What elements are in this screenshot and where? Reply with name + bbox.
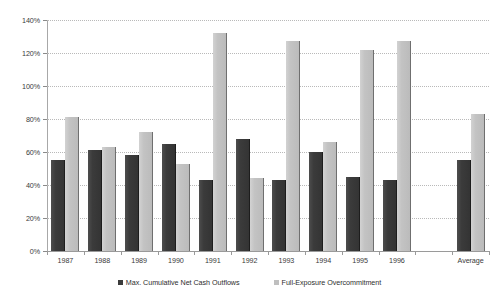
y-axis-tick-label: 80%	[0, 115, 40, 124]
y-axis-tick-label: 40%	[0, 181, 40, 190]
bar-full-exposure-overcommitment	[471, 114, 485, 251]
bar-group	[162, 20, 190, 251]
bar-full-exposure-overcommitment	[213, 33, 227, 251]
y-axis-tick-label: 20%	[0, 214, 40, 223]
x-axis-tick	[121, 251, 122, 255]
legend-swatch-icon-dark	[118, 280, 123, 285]
y-axis-tick-label: 100%	[0, 82, 40, 91]
plot-area	[47, 20, 489, 251]
bar-full-exposure-overcommitment	[397, 41, 411, 251]
bar-full-exposure-overcommitment	[139, 132, 153, 251]
bar-full-exposure-overcommitment	[250, 178, 264, 251]
bar-group	[272, 20, 300, 251]
x-axis-tick	[452, 251, 453, 255]
x-axis-tick	[415, 251, 416, 255]
bar-group	[346, 20, 374, 251]
x-axis-tick	[47, 251, 48, 255]
bar-max-cumulative-net-cash-outflows	[88, 150, 102, 251]
bar-full-exposure-overcommitment	[65, 117, 79, 251]
y-axis-tick-label: 60%	[0, 148, 40, 157]
legend-item-full-exposure-overcommitment: Full-Exposure Overcommitment	[274, 278, 382, 287]
bar-group	[383, 20, 411, 251]
bar-max-cumulative-net-cash-outflows	[309, 152, 323, 251]
bar-full-exposure-overcommitment	[360, 50, 374, 251]
x-axis-tick	[268, 251, 269, 255]
bar-full-exposure-overcommitment	[323, 142, 337, 251]
bar-max-cumulative-net-cash-outflows	[457, 160, 471, 251]
bar-full-exposure-overcommitment	[176, 164, 190, 251]
x-axis-tick	[489, 251, 490, 255]
bar-max-cumulative-net-cash-outflows	[162, 144, 176, 251]
bar-groups	[47, 20, 489, 251]
x-axis-tick	[194, 251, 195, 255]
bar-group	[199, 20, 227, 251]
bar-full-exposure-overcommitment	[102, 147, 116, 251]
x-axis-tick	[231, 251, 232, 255]
x-axis-tick-label: Average	[441, 256, 499, 265]
y-axis-tick-label: 0%	[0, 247, 40, 256]
bar-group	[420, 20, 448, 251]
x-axis-tick-label: 1996	[367, 256, 427, 265]
bar-max-cumulative-net-cash-outflows	[199, 180, 213, 251]
chart-legend: Max. Cumulative Net Cash Outflows Full-E…	[0, 278, 499, 287]
legend-label: Max. Cumulative Net Cash Outflows	[126, 278, 240, 287]
bar-max-cumulative-net-cash-outflows	[346, 177, 360, 251]
y-axis-tick-label: 140%	[0, 16, 40, 25]
bar-max-cumulative-net-cash-outflows	[272, 180, 286, 251]
bar-group	[88, 20, 116, 251]
legend-label: Full-Exposure Overcommitment	[282, 278, 382, 287]
x-axis-tick	[305, 251, 306, 255]
legend-item-max-cumulative-net-cash-outflows: Max. Cumulative Net Cash Outflows	[118, 278, 240, 287]
x-axis-tick	[379, 251, 380, 255]
bar-group	[51, 20, 79, 251]
bar-group	[236, 20, 264, 251]
legend-swatch-icon-light	[274, 280, 279, 285]
y-axis-tick-label: 120%	[0, 49, 40, 58]
bar-max-cumulative-net-cash-outflows	[236, 139, 250, 251]
x-axis-tick	[158, 251, 159, 255]
bar-max-cumulative-net-cash-outflows	[383, 180, 397, 251]
bar-max-cumulative-net-cash-outflows	[51, 160, 65, 251]
bar-full-exposure-overcommitment	[286, 41, 300, 251]
bar-chart: 0%20%40%60%80%100%120%140% 1987198819891…	[0, 0, 499, 294]
bar-max-cumulative-net-cash-outflows	[125, 155, 139, 251]
x-axis-tick	[84, 251, 85, 255]
bar-group	[125, 20, 153, 251]
bar-group	[457, 20, 485, 251]
x-axis-tick	[342, 251, 343, 255]
bar-group	[309, 20, 337, 251]
